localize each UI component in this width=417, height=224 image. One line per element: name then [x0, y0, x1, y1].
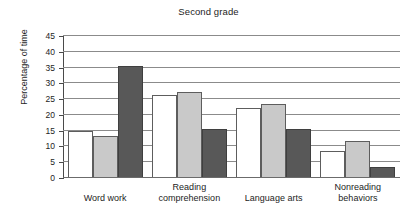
y-tick-label: 10	[33, 141, 55, 151]
chart-title: Second grade	[0, 6, 417, 17]
y-tick-label: 0	[33, 173, 55, 183]
x-axis-category-label: Nonreading behaviors	[303, 182, 413, 204]
gridline	[63, 35, 400, 36]
y-axis-label: Percentage of time	[19, 0, 29, 137]
plot-area	[63, 36, 400, 178]
bar	[286, 129, 311, 178]
bar	[93, 136, 118, 178]
bar	[118, 66, 143, 178]
y-tick-label: 5	[33, 157, 55, 167]
y-tick-label: 40	[33, 47, 55, 57]
chart-figure: Second grade Percentage of time 05101520…	[0, 0, 417, 224]
x-axis-line	[63, 177, 400, 178]
bar	[152, 95, 177, 178]
gridline	[63, 82, 400, 83]
y-tick-label: 15	[33, 126, 55, 136]
bar	[261, 104, 286, 178]
gridline	[63, 98, 400, 99]
y-tick-label: 35	[33, 63, 55, 73]
y-tick-label: 45	[33, 31, 55, 41]
bar	[68, 131, 93, 178]
y-tick-label: 25	[33, 94, 55, 104]
gridline	[63, 130, 400, 131]
bar	[320, 151, 345, 178]
bar	[345, 141, 370, 178]
bar	[202, 129, 227, 178]
gridline	[63, 51, 400, 52]
bar	[236, 108, 261, 178]
y-tick-label: 30	[33, 78, 55, 88]
gridline	[63, 67, 400, 68]
bar	[177, 92, 202, 178]
gridline	[63, 114, 400, 115]
y-tick-label: 20	[33, 110, 55, 120]
y-tick-mark	[59, 178, 63, 179]
